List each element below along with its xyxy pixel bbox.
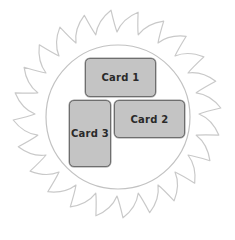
card-2[interactable]: Card 2 [114, 100, 185, 138]
card-1[interactable]: Card 1 [85, 58, 156, 97]
card-2-label: Card 2 [131, 114, 169, 125]
card-1-label: Card 1 [102, 72, 140, 83]
card-3-label: Card 3 [71, 128, 109, 139]
card-3[interactable]: Card 3 [69, 100, 111, 167]
